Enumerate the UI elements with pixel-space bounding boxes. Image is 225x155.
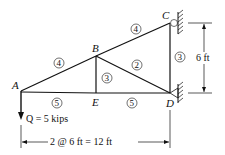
vertical-dimension-label: 6 ft — [196, 52, 210, 63]
svg-text:4: 4 — [134, 24, 139, 34]
member-label-bd: 2 — [132, 60, 142, 70]
member-label-ab: 4 — [54, 58, 64, 68]
horizontal-dimension-label: 2 @ 6 ft = 12 ft — [50, 136, 112, 147]
svg-text:3: 3 — [178, 52, 183, 62]
svg-text:5: 5 — [130, 98, 135, 108]
svg-text:5: 5 — [55, 98, 60, 108]
member-label-be: 3 — [102, 73, 112, 83]
member-label-cd: 3 — [175, 52, 185, 62]
node-label-a: A — [11, 79, 19, 91]
member-ae — [21, 92, 96, 93]
svg-text:4: 4 — [57, 58, 62, 68]
truss-diagram: Q = 5 kips A B C D E 4 4 5 5 3 2 3 — [0, 0, 225, 155]
load-label: Q = 5 kips — [26, 113, 68, 124]
roller-support-c — [171, 10, 184, 34]
svg-text:3: 3 — [105, 73, 110, 83]
member-label-ed: 5 — [127, 98, 137, 108]
node-label-e: E — [91, 96, 99, 108]
node-label-b: B — [92, 42, 99, 54]
node-label-d: D — [165, 97, 174, 109]
member-label-ae: 5 — [52, 98, 62, 108]
node-label-c: C — [162, 9, 170, 21]
load-arrow — [18, 91, 24, 120]
svg-text:2: 2 — [135, 60, 140, 70]
member-label-bc: 4 — [131, 24, 141, 34]
